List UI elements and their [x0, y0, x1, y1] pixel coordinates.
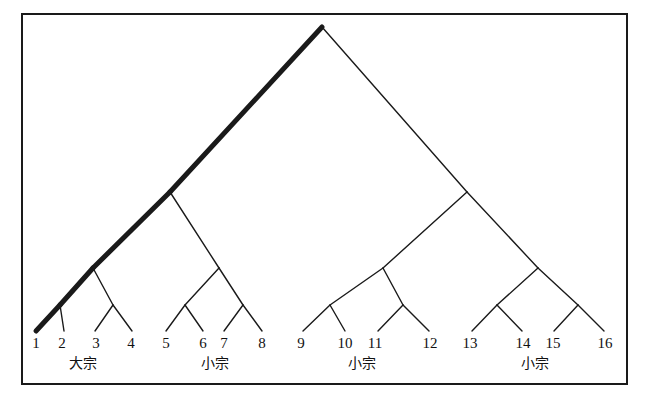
leaf-label-12: 12	[423, 335, 438, 351]
leaf-label-11: 11	[368, 335, 382, 351]
leaf-label-3: 3	[92, 335, 100, 351]
group-label-xiaozong-3: 小宗	[521, 355, 549, 371]
leaf-label-7: 7	[220, 335, 228, 351]
leaf-label-6: 6	[199, 335, 207, 351]
tree-diagram-canvas: 1 2 3 4 5 6 7 8 9 10 11 12 13 14 15 16 大…	[0, 0, 650, 413]
group-label-dazong: 大宗	[69, 355, 97, 371]
leaf-label-2: 2	[58, 335, 66, 351]
group-label-xiaozong-1: 小宗	[201, 355, 229, 371]
group-label-xiaozong-2: 小宗	[348, 355, 376, 371]
leaf-label-9: 9	[297, 335, 305, 351]
leaf-label-8: 8	[258, 335, 266, 351]
lineage-tree-figure: 1 2 3 4 5 6 7 8 9 10 11 12 13 14 15 16 大…	[0, 0, 650, 413]
figure-border	[22, 14, 627, 384]
leaf-label-14: 14	[516, 335, 532, 351]
leaf-label-15: 15	[546, 335, 561, 351]
leaf-label-10: 10	[338, 335, 353, 351]
leaf-label-1: 1	[32, 335, 40, 351]
leaf-label-4: 4	[127, 335, 135, 351]
leaf-label-13: 13	[463, 335, 478, 351]
leaf-label-16: 16	[598, 335, 614, 351]
leaf-label-5: 5	[162, 335, 170, 351]
